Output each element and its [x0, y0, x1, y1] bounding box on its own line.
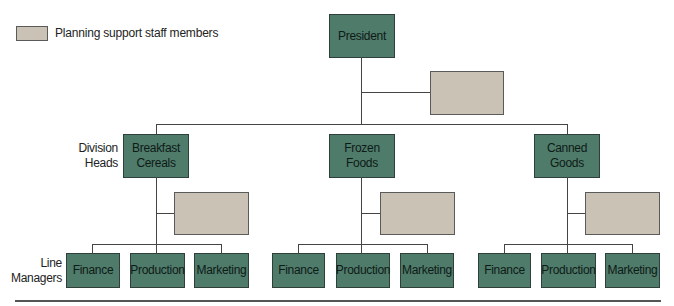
president-staff-box	[430, 71, 504, 115]
line-managers-label: Line Managers	[0, 256, 62, 286]
connector	[298, 244, 299, 253]
connector	[504, 244, 633, 245]
connector	[567, 177, 568, 253]
manager-box-marketing: Marketing	[605, 253, 660, 288]
manager-box-marketing: Marketing	[400, 253, 454, 288]
division-box-frozen-foods: Frozen Foods	[329, 134, 395, 178]
connector	[156, 213, 174, 214]
connector	[504, 244, 505, 253]
connector	[298, 244, 428, 245]
manager-box-marketing: Marketing	[194, 253, 249, 288]
president-box: President	[329, 14, 395, 58]
manager-box-finance: Finance	[66, 253, 120, 288]
manager-box-production: Production	[130, 253, 185, 288]
connector	[361, 177, 362, 253]
connector	[361, 57, 362, 125]
connector	[361, 92, 430, 93]
manager-box-finance: Finance	[272, 253, 325, 288]
president-label: President	[338, 29, 386, 44]
connector	[156, 124, 157, 134]
division-heads-label: Division Heads	[60, 141, 118, 171]
connector	[156, 124, 568, 125]
division-box-canned-goods: Canned Goods	[534, 134, 600, 178]
connector	[156, 177, 157, 253]
connector	[632, 244, 633, 253]
division-staff-box	[174, 192, 249, 235]
connector	[361, 213, 380, 214]
manager-box-production: Production	[336, 253, 390, 288]
connector	[567, 213, 585, 214]
manager-box-production: Production	[541, 253, 596, 288]
division-box-breakfast-cereals: Breakfast Cereals	[123, 134, 189, 178]
division-staff-box	[380, 192, 455, 235]
connector	[92, 244, 222, 245]
legend-label: Planning support staff members	[55, 26, 218, 40]
connector	[567, 124, 568, 134]
manager-box-finance: Finance	[478, 253, 531, 288]
legend-swatch	[16, 26, 48, 41]
connector	[427, 244, 428, 253]
division-staff-box	[585, 192, 660, 235]
bottom-rule	[15, 300, 661, 302]
connector	[221, 244, 222, 253]
connector	[92, 244, 93, 253]
